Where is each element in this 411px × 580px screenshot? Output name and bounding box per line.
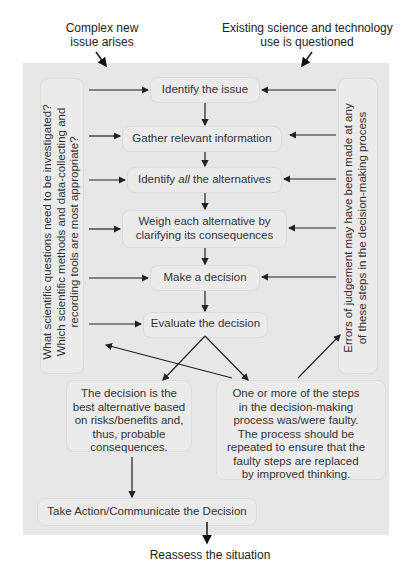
flow-arrows xyxy=(0,0,411,580)
arrow-trigger-left xyxy=(96,52,106,66)
arrow-trigger-right xyxy=(302,52,312,66)
